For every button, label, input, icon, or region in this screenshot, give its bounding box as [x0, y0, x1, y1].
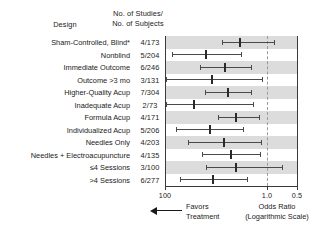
x-axis-tick: [267, 186, 268, 190]
row-label-design: Sham-Controlled, Blind*: [0, 38, 130, 47]
confidence-interval-line: [166, 104, 253, 105]
point-estimate-marker: [223, 138, 225, 147]
ci-cap-lower: [202, 152, 203, 157]
row-value-counts: 2/73: [133, 101, 167, 110]
point-estimate-marker: [209, 125, 211, 134]
point-estimate-marker: [205, 50, 207, 59]
row-value-counts: 5/204: [133, 51, 167, 60]
row-value-counts: 6/246: [133, 63, 167, 72]
ci-cap-lower: [218, 115, 219, 120]
confidence-interval-line: [218, 117, 259, 118]
ci-cap-upper: [251, 65, 252, 70]
ci-cap-upper: [253, 102, 254, 107]
ci-cap-lower: [166, 77, 167, 82]
confidence-interval-line: [206, 167, 282, 168]
ci-cap-lower: [166, 102, 167, 107]
point-estimate-marker: [211, 75, 213, 84]
x-axis-line: [165, 186, 298, 187]
row-label-design: Higher-Quality Acup: [0, 88, 130, 97]
ci-cap-upper: [243, 127, 244, 132]
point-estimate-marker: [239, 38, 241, 47]
row-label-design: Individualized Acup: [0, 126, 130, 135]
point-estimate-marker: [212, 175, 214, 184]
row-value-counts: 7/304: [133, 88, 167, 97]
row-value-counts: 4/203: [133, 138, 167, 147]
odds-ratio-title: Odds Ratio: [235, 202, 319, 212]
ci-cap-lower: [222, 40, 223, 45]
x-axis-tick-label: 100: [153, 191, 177, 200]
row-value-counts: 4/135: [133, 151, 167, 160]
odds-ratio-subtitle: (Logarithmic Scale): [235, 212, 319, 222]
plot-frame-right-axis: [297, 36, 298, 186]
column-header-counts-line2: No. of Subjects: [108, 19, 168, 29]
ci-cap-upper: [274, 40, 275, 45]
plot-frame-left-axis: [165, 36, 166, 186]
row-label-design: Nonblind: [0, 51, 130, 60]
row-value-counts: 4/173: [133, 38, 167, 47]
row-label-design: Immediate Outcome: [0, 63, 130, 72]
ci-cap-upper: [251, 90, 252, 95]
row-label-design: >4 Sessions: [0, 176, 130, 185]
row-value-counts: 6/277: [133, 176, 167, 185]
ci-cap-lower: [176, 127, 177, 132]
reference-line-no-effect: [267, 36, 268, 186]
row-label-design: Inadequate Acup: [0, 101, 130, 110]
left-arrow-shaft: [156, 210, 182, 211]
ci-cap-lower: [172, 52, 173, 57]
forest-plot-area: [165, 36, 298, 186]
ci-cap-lower: [180, 177, 181, 182]
row-value-counts: 3/100: [133, 163, 167, 172]
ci-cap-upper: [261, 140, 262, 145]
point-estimate-marker: [235, 113, 237, 122]
point-estimate-marker: [230, 150, 232, 159]
ci-cap-lower: [188, 140, 189, 145]
x-axis-tick-label: 1.0: [255, 191, 279, 200]
ci-cap-upper: [262, 77, 263, 82]
point-estimate-marker: [224, 63, 226, 72]
ci-cap-upper: [247, 177, 248, 182]
row-label-design: Outcome >3 mo: [0, 76, 130, 85]
x-axis-tick: [297, 186, 298, 190]
x-axis-tick-label: 0.5: [285, 191, 309, 200]
ci-cap-upper: [259, 115, 260, 120]
ci-cap-lower: [200, 65, 201, 70]
odds-ratio-caption: Odds Ratio (Logarithmic Scale): [235, 202, 319, 222]
confidence-interval-line: [166, 79, 262, 80]
row-value-counts: 3/131: [133, 76, 167, 85]
ci-cap-lower: [206, 165, 207, 170]
table-header: Design No. of Studies/ No. of Subjects: [0, 0, 319, 36]
column-header-counts: No. of Studies/ No. of Subjects: [108, 9, 168, 28]
confidence-interval-line: [222, 42, 275, 43]
left-arrow-icon: [150, 206, 184, 215]
point-estimate-marker: [235, 163, 237, 172]
ci-cap-lower: [205, 90, 206, 95]
column-header-counts-line1: No. of Studies/: [108, 9, 168, 19]
row-label-design: ≤4 Sessions: [0, 163, 130, 172]
ci-cap-upper: [282, 165, 283, 170]
point-estimate-marker: [193, 100, 195, 109]
row-label-design: Needles Only: [0, 138, 130, 147]
row-label-design: Formula Acup: [0, 113, 130, 122]
row-value-counts: 5/206: [133, 126, 167, 135]
row-label-design: Needles + Electroacupuncture: [0, 151, 130, 160]
point-estimate-marker: [227, 88, 229, 97]
x-axis-tick: [165, 186, 166, 190]
ci-cap-upper: [241, 52, 242, 57]
row-value-counts: 4/171: [133, 113, 167, 122]
column-header-design: Design: [22, 20, 108, 29]
x-axis: 1001.00.5: [165, 186, 298, 191]
ci-cap-upper: [260, 152, 261, 157]
